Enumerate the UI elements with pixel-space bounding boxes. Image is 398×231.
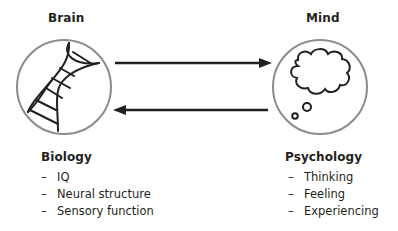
list-item: –IQ	[41, 169, 154, 186]
list-item: –Thinking	[288, 169, 379, 186]
list-item: –Sensory function	[41, 203, 154, 220]
thought-cloud-icon	[291, 49, 350, 119]
mind-title: Mind	[306, 11, 340, 25]
biology-heading: Biology	[41, 150, 92, 164]
biology-list: –IQ –Neural structure –Sensory function	[41, 169, 154, 220]
list-item: –Neural structure	[41, 186, 154, 203]
mind-circle	[273, 40, 367, 134]
psychology-list: –Thinking –Feeling –Experiencing	[288, 169, 379, 220]
list-item: –Feeling	[288, 186, 379, 203]
list-item: –Experiencing	[288, 203, 379, 220]
arrow-brain-to-mind	[115, 58, 272, 68]
dna-helix-icon	[28, 43, 99, 131]
psychology-heading: Psychology	[285, 150, 362, 164]
brain-circle	[17, 40, 111, 134]
arrow-mind-to-brain	[113, 105, 268, 115]
brain-title: Brain	[48, 11, 84, 25]
